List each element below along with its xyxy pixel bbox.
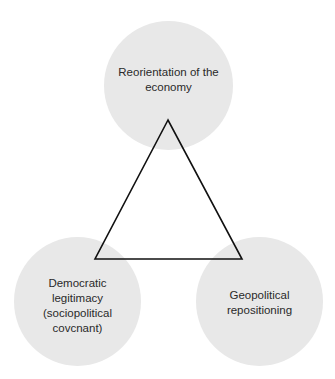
truncated-caption <box>0 374 335 379</box>
concept-triangle-diagram: Reorientation of the economy Democratic … <box>0 0 335 379</box>
triangle-outline <box>95 120 242 259</box>
connecting-triangle <box>0 0 335 379</box>
